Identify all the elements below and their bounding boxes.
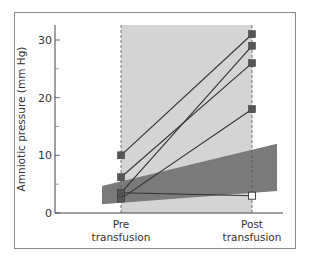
pre-marker bbox=[118, 174, 125, 181]
x-category-label-line1: Pre bbox=[113, 218, 130, 230]
post-marker bbox=[249, 31, 256, 38]
y-tick-label: 20 bbox=[38, 92, 52, 105]
y-tick-label: 0 bbox=[45, 207, 52, 220]
x-category-label-line1: Post bbox=[241, 218, 263, 230]
x-category-label-line2: transfusion bbox=[223, 231, 282, 243]
chart: 0102030Amniotic pressure (mm Hg)Pretrans… bbox=[0, 0, 309, 257]
post-marker bbox=[249, 106, 256, 113]
post-marker bbox=[249, 60, 256, 67]
y-axis-title: Amniotic pressure (mm Hg) bbox=[15, 47, 27, 192]
post-marker bbox=[249, 42, 256, 49]
y-tick-label: 10 bbox=[38, 149, 52, 162]
post-marker-open bbox=[249, 192, 256, 199]
x-category-label-line2: transfusion bbox=[92, 231, 151, 243]
y-tick-label: 30 bbox=[38, 34, 52, 47]
pre-marker bbox=[118, 152, 125, 159]
pre-marker bbox=[118, 189, 125, 196]
